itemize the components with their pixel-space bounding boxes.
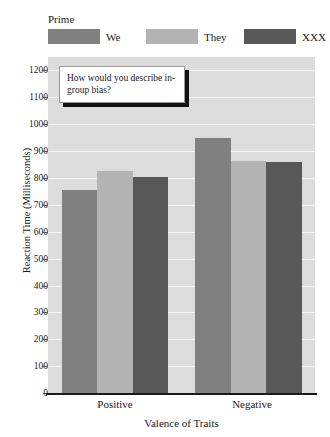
x-tick-label-positive: Positive: [75, 398, 155, 410]
y-axis-title: Reaction Time (Milliseconds): [21, 81, 32, 341]
legend: We They XXX: [48, 28, 320, 45]
legend-item-they: They: [146, 28, 227, 45]
legend-item-xxx: XXX: [244, 28, 326, 45]
gridline: [48, 124, 315, 125]
plot-area: [48, 57, 315, 393]
gridline: [48, 151, 315, 152]
legend-item-we: We: [48, 28, 120, 45]
bar-negative-xxx: [266, 162, 302, 393]
y-tick-mark: [43, 205, 48, 206]
bar-positive-they: [97, 171, 133, 393]
bar-positive-xxx: [133, 177, 169, 393]
legend-swatch-we: [48, 29, 100, 44]
legend-swatch-xxx: [244, 29, 296, 44]
legend-swatch-they: [146, 29, 198, 44]
callout-text: How would you describe in-group bias?: [67, 72, 178, 96]
y-tick-mark: [43, 151, 48, 152]
bar-negative-we: [195, 138, 231, 393]
y-tick-mark: [43, 366, 48, 367]
legend-label-they: They: [204, 31, 227, 43]
y-tick-mark: [43, 124, 48, 125]
y-tick-mark: [43, 312, 48, 313]
y-tick-label: 0: [4, 388, 48, 398]
legend-title: Prime: [48, 13, 74, 25]
y-tick-mark: [43, 97, 48, 98]
y-tick-label: 100: [4, 361, 48, 371]
y-tick-mark: [43, 178, 48, 179]
x-axis-title: Valence of Traits: [48, 417, 315, 429]
bar-positive-we: [62, 190, 98, 393]
y-tick-mark: [43, 70, 48, 71]
y-tick-mark: [43, 286, 48, 287]
bar-chart-figure: Prime We They XXX 0100200300400500600700…: [0, 0, 330, 437]
x-tick-label-negative: Negative: [212, 398, 292, 410]
y-tick-mark: [43, 259, 48, 260]
callout-box: How would you describe in-group bias?: [59, 66, 185, 103]
legend-label-we: We: [106, 31, 120, 43]
bar-negative-they: [231, 161, 267, 394]
y-tick-label: 1200: [4, 65, 48, 75]
y-tick-mark: [43, 339, 48, 340]
x-axis-line: [46, 393, 317, 395]
legend-label-xxx: XXX: [302, 31, 326, 43]
y-tick-mark: [43, 232, 48, 233]
